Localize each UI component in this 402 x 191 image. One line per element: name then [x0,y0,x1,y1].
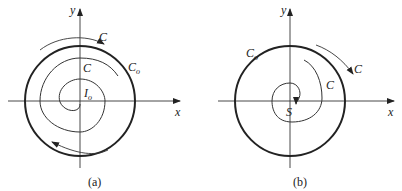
spiral-trajectory-b [272,60,322,122]
trajectory-label-b: C [326,78,335,92]
limit-cycle-label-a: Co [128,60,140,76]
caption-b: (b) [293,175,307,189]
center-label-b: S [286,105,292,119]
cycle-label-b: Co [246,46,258,62]
x-axis-label-b: x [387,105,394,119]
trajectory-label-a: C [83,61,92,75]
outer-arrow-label-a: C [99,30,108,44]
x-axis-label-a: x [174,105,181,119]
y-axis-label-a: y [69,3,76,17]
y-axis-label-b: y [280,3,287,17]
phase-portrait-figure: x y C C Co Io (a) x y C C Co S (b) [0,0,402,191]
figure-canvas: x y C C Co Io (a) x y C C Co S (b) [0,0,402,191]
spiral-trajectory-a [40,58,118,132]
caption-a: (a) [88,175,101,189]
panel-a: x y C C Co Io (a) [8,3,181,189]
outer-arrow-label-b: C [354,62,363,76]
center-label-a: Io [83,86,92,102]
panel-b: x y C C Co S (b) [218,3,394,189]
